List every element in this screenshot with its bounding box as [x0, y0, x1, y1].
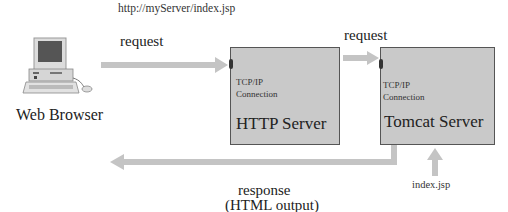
- request-label-2: request: [344, 27, 387, 44]
- url-label: http://myServer/index.jsp: [118, 2, 235, 14]
- tcp-connection-label: TCP/IP Connection: [236, 76, 278, 100]
- request-arrow-1: [101, 57, 228, 73]
- response-arrow: [110, 145, 397, 170]
- web-browser-label: Web Browser: [16, 106, 103, 124]
- tcp-connection-label: TCP/IP Connection: [383, 79, 425, 103]
- tcp-label: TCP/IP: [383, 79, 425, 91]
- tcp-label: TCP/IP: [236, 76, 278, 88]
- source-arrow: [427, 148, 443, 176]
- port-connector-icon: [229, 59, 233, 69]
- request-label-1: request: [120, 33, 163, 50]
- port-connector-icon: [379, 59, 383, 69]
- tomcat-server-title: Tomcat Server: [384, 112, 483, 132]
- http-server-box: TCP/IP Connection HTTP Server: [230, 47, 340, 145]
- tomcat-server-box: TCP/IP Connection Tomcat Server: [380, 47, 495, 145]
- html-output-label: (HTML output): [225, 197, 319, 212]
- request-arrow-2: [343, 51, 379, 65]
- connection-label: Connection: [383, 91, 425, 103]
- desktop-computer-icon: [23, 38, 92, 93]
- index-jsp-label: index.jsp: [412, 179, 450, 190]
- connection-label: Connection: [236, 88, 278, 100]
- http-server-title: HTTP Server: [236, 114, 327, 134]
